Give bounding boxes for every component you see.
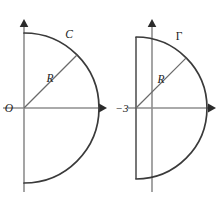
left-radius-label: R [45, 72, 53, 84]
right-radius-label: R [156, 73, 164, 85]
right-horizontal-axis-arrowhead [208, 104, 216, 113]
semicircular-contour-figure: O C R −3 Γ R [0, 0, 224, 197]
right-arc-label: Γ [176, 30, 183, 42]
left-horizontal-axis-arrowhead [99, 104, 107, 113]
figure-canvas: O C R −3 Γ R [0, 0, 224, 197]
right-vertical-axis-arrowhead [148, 19, 157, 27]
right-origin-label: −3 [116, 102, 129, 114]
left-origin-label: O [5, 102, 14, 114]
left-contour-panel: O C R [3, 19, 107, 192]
left-arc-label: C [65, 28, 73, 40]
left-vertical-axis-arrowhead [20, 19, 29, 27]
right-contour-panel: −3 Γ R [116, 19, 216, 192]
